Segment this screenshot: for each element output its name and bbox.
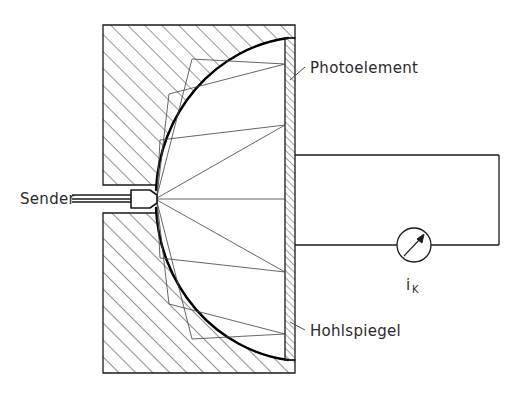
hohlspiegel-label: Hohlspiegel [310,322,401,340]
current-meter [397,228,431,262]
sender-assembly [72,190,157,208]
circuit-loop [295,155,499,245]
technical-diagram-svg: Sender Photoelement Hohlspiegel i K [0,0,527,396]
photoelement-strip [283,36,297,362]
current-subscript-label: K [412,284,419,295]
sender-label: Sender [20,190,76,208]
photoelement-label: Photoelement [310,59,418,77]
current-symbol-label: i [406,276,410,294]
diagram-root: Sender Photoelement Hohlspiegel i K [0,0,527,396]
